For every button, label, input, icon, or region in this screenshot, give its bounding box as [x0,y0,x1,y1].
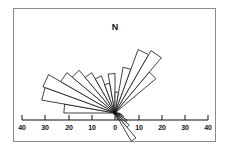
axis-tick-label: 30 [41,124,48,131]
axis-tick-label: 10 [135,124,142,131]
rose-center-point [113,111,117,115]
axis-tick-label: 0 [113,124,117,131]
rose-petal [115,113,136,141]
axis-tick-label: 40 [18,124,25,131]
axis-tick-label: 10 [88,124,95,131]
axis-tick-label: 30 [181,124,188,131]
petal-group [42,50,162,142]
axis-tick-label: 20 [65,124,72,131]
radial-scale-axis [22,115,208,120]
axis-tick-label: 20 [158,124,165,131]
north-label: N [112,22,119,32]
rose-diagram-screenshot: N 40302010010203040 [0,0,229,150]
axis-tick-label: 40 [204,124,211,131]
